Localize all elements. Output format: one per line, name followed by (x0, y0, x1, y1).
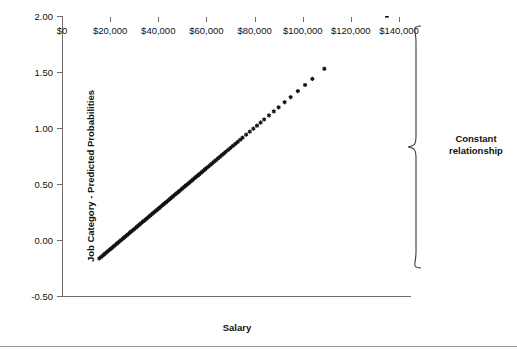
y-tick-mark (57, 296, 62, 297)
scatter-point (255, 124, 259, 128)
scatter-point (262, 117, 266, 121)
scatter-point (303, 83, 307, 87)
y-tick-label: 1.00 (35, 123, 54, 134)
scatter-point (385, 16, 389, 18)
y-tick-label: 0.00 (35, 235, 54, 246)
chart-figure: Job Category - Predicted Probabilities -… (0, 0, 517, 352)
constant-relationship-label: Constant relationship (437, 133, 515, 157)
x-axis-line (62, 296, 411, 297)
scatter-point (252, 127, 256, 131)
x-axis-title: Salary (0, 322, 517, 333)
y-tick-label: 1.50 (35, 67, 54, 78)
scatter-point (267, 113, 271, 117)
scatter-point (272, 109, 276, 113)
constant-relationship-brace (405, 24, 433, 270)
scatter-point (277, 105, 281, 109)
y-tick-label: 0.50 (35, 179, 54, 190)
annotation-line-1: Constant (437, 133, 515, 145)
scatter-point (311, 77, 315, 81)
scatter-point (283, 100, 287, 104)
plot-area: -0.500.000.501.001.502.00 $0$20,000$40,0… (62, 16, 411, 296)
scatter-point (241, 136, 245, 140)
x-axis-title-text: Salary (223, 322, 252, 333)
annotation-line-2: relationship (437, 145, 515, 157)
scatter-point (289, 95, 293, 99)
footer-divider (0, 346, 517, 347)
scatter-series (62, 16, 411, 296)
scatter-point (296, 89, 300, 93)
scatter-point (248, 130, 252, 134)
y-tick-label: 2.00 (35, 11, 54, 22)
scatter-point (323, 67, 327, 71)
scatter-point (259, 120, 263, 124)
y-tick-label: -0.50 (31, 291, 53, 302)
scatter-point (244, 133, 248, 137)
